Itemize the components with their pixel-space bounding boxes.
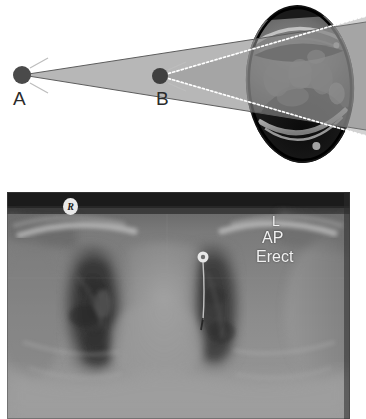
position-marker: Erect — [256, 249, 293, 265]
source-label-b: B — [156, 89, 169, 108]
radiology-figure: A B — [0, 0, 366, 419]
source-label-a: A — [13, 89, 26, 108]
collimation-band — [7, 192, 350, 208]
chest-radiograph: R L AP Erect — [7, 192, 350, 419]
diagram-canvas — [0, 0, 366, 180]
side-marker-left: L — [272, 213, 280, 229]
side-marker-right: R — [63, 198, 78, 215]
beam-geometry-diagram: A B — [0, 0, 366, 180]
projection-marker: AP — [262, 230, 283, 246]
radiograph-canvas — [7, 192, 350, 419]
